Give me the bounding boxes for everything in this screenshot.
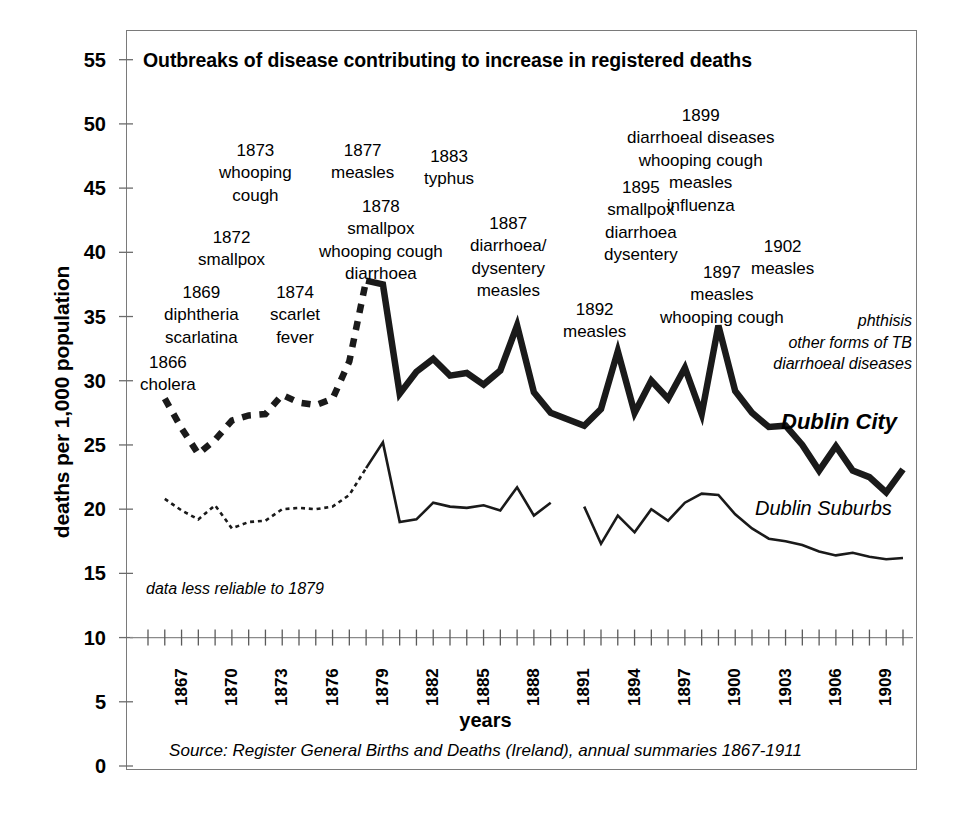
annotation-year: 1877 <box>331 140 394 162</box>
annotation-disease: diarrhoeal diseases <box>627 127 774 149</box>
annotation-disease: smallpox <box>319 218 443 240</box>
annotation-disease: scarlatina <box>164 327 239 349</box>
annotation-year: 1866 <box>140 352 196 374</box>
annotation-disease: whooping cough <box>660 307 784 329</box>
series-line-dublin-suburbs <box>366 442 551 522</box>
annotation-disease: measles <box>563 321 626 343</box>
x-axis-title: years <box>0 709 971 732</box>
annotation-disease: influenza <box>627 195 774 217</box>
annotation-disease: cholera <box>140 374 196 396</box>
y-tick-label: 15 <box>62 563 106 583</box>
cause-line: other forms of TB <box>726 332 912 354</box>
y-tick-label: 50 <box>62 114 106 134</box>
x-tick-label: 1900 <box>726 668 743 706</box>
annotation-year: 1902 <box>751 236 814 258</box>
x-tick-label: 1885 <box>475 668 492 706</box>
series-label-dublin-city: Dublin City <box>781 409 897 435</box>
series-line-dublin-suburbs <box>165 468 366 528</box>
outbreak-annotation: 1887diarrhoea/dysenterymeasles <box>470 213 547 303</box>
series-label-dublin-suburbs: Dublin Suburbs <box>755 497 892 520</box>
x-tick-label: 1894 <box>626 668 643 706</box>
y-tick-label: 10 <box>62 628 106 648</box>
y-tick-label: 30 <box>62 371 106 391</box>
y-tick-label: 55 <box>62 50 106 70</box>
y-tick-label: 45 <box>62 178 106 198</box>
annotation-disease: whooping cough <box>319 241 443 263</box>
annotation-disease: whooping <box>219 162 292 184</box>
cause-line: diarrhoeal diseases <box>726 353 912 375</box>
annotation-disease: measles <box>660 284 784 306</box>
annotation-year: 1872 <box>198 227 265 249</box>
annotation-disease: dysentery <box>470 258 547 280</box>
annotation-disease: diarrhoea <box>319 263 443 285</box>
y-tick-label: 35 <box>62 307 106 327</box>
y-tick-label: 0 <box>62 756 106 776</box>
x-tick-label: 1882 <box>424 668 441 706</box>
source-note: Source: Register General Births and Deat… <box>0 741 971 761</box>
annotation-disease: cough <box>219 185 292 207</box>
annotation-year: 1899 <box>627 105 774 127</box>
outbreak-annotation: 1883typhus <box>424 146 474 191</box>
annotation-disease: diarrhoea <box>604 222 678 244</box>
x-tick-label: 1903 <box>777 668 794 706</box>
annotation-year: 1878 <box>319 196 443 218</box>
annotation-disease: measles <box>751 258 814 280</box>
y-tick-label: 40 <box>62 242 106 262</box>
annotation-disease: measles <box>470 280 547 302</box>
annotation-year: 1887 <box>470 213 547 235</box>
annotation-year: 1892 <box>563 299 626 321</box>
x-tick-label: 1891 <box>575 668 592 706</box>
annotation-disease: fever <box>270 327 320 349</box>
x-tick-label: 1888 <box>525 668 542 706</box>
annotation-year: 1883 <box>424 146 474 168</box>
outbreak-annotation: 1877measles <box>331 140 394 185</box>
annotation-disease: diarrhoea/ <box>470 235 547 257</box>
x-tick-label: 1873 <box>273 668 290 706</box>
y-tick-label: 5 <box>62 692 106 712</box>
x-tick-label: 1897 <box>676 668 693 706</box>
annotation-year: 1873 <box>219 140 292 162</box>
annotation-year: 1874 <box>270 282 320 304</box>
annotation-disease: smallpox <box>198 249 265 271</box>
outbreak-annotation: 1892measles <box>563 299 626 344</box>
annotation-disease: measles <box>331 162 394 184</box>
annotation-disease: diphtheria <box>164 304 239 326</box>
x-tick-label: 1867 <box>173 668 190 706</box>
outbreak-annotation: 1878smallpoxwhooping coughdiarrhoea <box>319 196 443 286</box>
annotation-disease: scarlet <box>270 304 320 326</box>
x-tick-label: 1879 <box>374 668 391 706</box>
annotation-disease: typhus <box>424 168 474 190</box>
chart-title: Outbreaks of disease contributing to inc… <box>143 49 752 72</box>
annotation-disease: whooping cough <box>627 150 774 172</box>
x-tick-label: 1870 <box>223 668 240 706</box>
outbreak-annotation: 1902measles <box>751 236 814 281</box>
outbreak-annotation: 1873whoopingcough <box>219 140 292 207</box>
outbreak-annotation: 1866cholera <box>140 352 196 397</box>
chart-container: deaths per 1,000 population Outbreaks of… <box>0 0 971 821</box>
outbreak-annotation: 1899diarrhoeal diseaseswhooping coughmea… <box>627 105 774 217</box>
data-reliability-note: data less reliable to 1879 <box>146 578 324 600</box>
outbreak-annotation: 1869diphtheriascarlatina <box>164 282 239 349</box>
outbreak-annotation: 1872smallpox <box>198 227 265 272</box>
annotation-year: 1869 <box>164 282 239 304</box>
x-tick-label: 1909 <box>877 668 894 706</box>
outbreak-annotation: 1874scarletfever <box>270 282 320 349</box>
y-tick-label: 20 <box>62 499 106 519</box>
annotation-disease: measles <box>627 172 774 194</box>
y-tick-label: 25 <box>62 435 106 455</box>
x-tick-label: 1876 <box>324 668 341 706</box>
x-tick-label: 1906 <box>827 668 844 706</box>
